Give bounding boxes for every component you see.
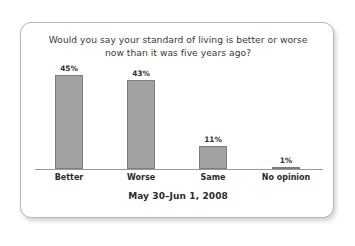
category-label-worse: Worse: [105, 173, 177, 182]
bar-column: 43%: [127, 80, 155, 169]
title-line-1: Would you say your standard of living is…: [35, 33, 321, 46]
bar-rect: [199, 146, 227, 169]
bar-slot: 11%: [177, 65, 249, 169]
category-label-no-opinion: No opinion: [249, 173, 323, 182]
bar-value-label: 45%: [60, 64, 78, 73]
bar-slot: 45%: [33, 65, 105, 169]
page-title: Would you say your standard of living is…: [35, 33, 321, 59]
bar-column: 11%: [199, 146, 227, 169]
category-label-better: Better: [33, 173, 105, 182]
bar-value-label: 1%: [280, 156, 293, 165]
bar-slot: 1%: [249, 65, 323, 169]
title-line-2: now than it was five years ago?: [35, 46, 321, 59]
bar-value-label: 11%: [204, 135, 222, 144]
bar-column: 45%: [55, 75, 83, 169]
category-label-same: Same: [177, 173, 249, 182]
poll-result-card: Would you say your standard of living is…: [20, 22, 334, 218]
bar-rect: [55, 75, 83, 169]
bar-value-label: 43%: [132, 69, 150, 78]
x-axis-baseline: [35, 169, 323, 170]
bar-chart: 45% 43% 11% 1%: [33, 65, 323, 190]
poll-date-footer: May 30–Jun 1, 2008: [35, 191, 321, 201]
bar-rect: [127, 80, 155, 169]
bar-slot: 43%: [105, 65, 177, 169]
chart-plot-area: 45% 43% 11% 1%: [33, 65, 323, 170]
